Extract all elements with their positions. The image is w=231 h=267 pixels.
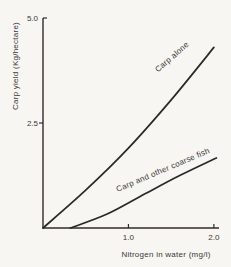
carp-yield-vs-nitrogen-chart: 2.55.01.02.0 Carp yield (Kg/hectare) Nit… — [0, 0, 231, 267]
plot-canvas: 2.55.01.02.0 — [0, 0, 231, 267]
y-tick-label: 2.5 — [27, 119, 39, 128]
x-tick-label: 1.0 — [123, 233, 135, 242]
x-axis-title: Nitrogen in water (mg/l) — [121, 250, 210, 259]
series-line-0 — [43, 47, 214, 228]
y-tick-label: 5.0 — [27, 14, 39, 23]
axes — [43, 18, 219, 228]
x-tick-label: 2.0 — [208, 233, 220, 242]
y-axis-title: Carp yield (Kg/hectare) — [11, 22, 20, 110]
series-line-1 — [70, 158, 216, 228]
